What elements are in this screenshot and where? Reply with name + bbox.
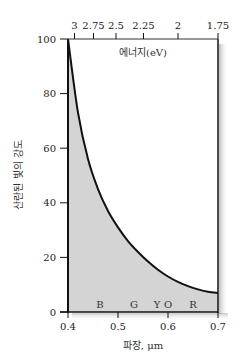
plot-shadow-right [219, 44, 228, 314]
chart: 020406080100 0.40.50.60.7 32.752.52.2521… [0, 0, 240, 362]
top-tick-label: 2.25 [132, 20, 154, 31]
y-tick-label: 60 [43, 143, 56, 154]
color-band-label: R [189, 299, 197, 310]
y-tick-label: 80 [43, 88, 56, 99]
color-band-label: O [164, 299, 172, 310]
top-tick-label: 2.5 [108, 20, 124, 31]
color-band-label: B [96, 299, 103, 310]
x-tick-label: 0.6 [160, 321, 176, 332]
top-axis-title: 에너지(eV) [119, 47, 167, 58]
x-tick-label: 0.4 [60, 321, 76, 332]
top-tick-label: 2.75 [82, 20, 104, 31]
x-axis-title: 파장, μm [123, 340, 164, 351]
y-axis: 020406080100 [37, 34, 68, 318]
top-tick-label: 1.75 [207, 20, 229, 31]
y-tick-label: 20 [43, 252, 56, 263]
top-energy-axis: 32.752.52.2521.75 [71, 20, 229, 39]
top-tick-label: 2 [175, 20, 181, 31]
y-tick-label: 40 [43, 197, 56, 208]
x-tick-label: 0.7 [210, 321, 226, 332]
color-band-label: G [130, 299, 138, 310]
y-axis-title: 산란된 빛의 강도 [13, 140, 24, 209]
y-tick-label: 100 [37, 34, 56, 45]
top-tick-label: 3 [71, 20, 77, 31]
x-tick-label: 0.5 [110, 321, 126, 332]
plot-shadow-bottom [72, 313, 228, 321]
color-band-label: Y [153, 299, 161, 310]
y-tick-label: 0 [50, 307, 56, 318]
